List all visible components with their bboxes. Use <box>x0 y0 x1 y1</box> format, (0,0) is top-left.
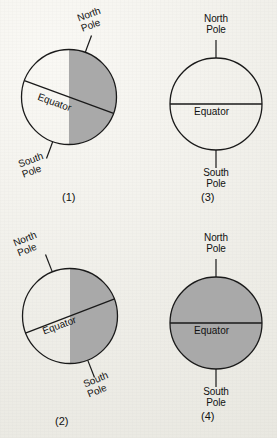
caption-2: (2) <box>55 415 68 427</box>
shaded-hemisphere-1 <box>69 49 118 146</box>
axis-south-stub-1 <box>47 142 53 159</box>
north-pole-label-4: North Pole <box>194 233 238 254</box>
diagram-1: North Pole South Pole Equator (1) <box>0 0 139 219</box>
axis-north-stub-1 <box>85 36 91 53</box>
diagram-3: North Pole South Pole Equator (3) <box>139 0 277 219</box>
caption-3: (3) <box>201 191 214 203</box>
diagram-2: North Pole South Pole Equator (2) <box>0 219 139 438</box>
caption-1: (1) <box>62 191 75 203</box>
north-pole-label-4-line2: Pole <box>206 243 226 254</box>
south-pole-label-3-line1: South <box>203 167 229 178</box>
shaded-hemisphere-2 <box>70 268 119 365</box>
equator-label-3: Equator <box>194 106 229 117</box>
diagram-4: North Pole South Pole Equator (4) <box>139 219 277 438</box>
equator-label-4: Equator <box>194 325 229 336</box>
south-pole-label-3: South Pole <box>194 168 238 189</box>
south-pole-label-3-line2: Pole <box>206 178 226 189</box>
caption-4: (4) <box>201 410 214 422</box>
south-pole-label-4: South Pole <box>194 387 238 408</box>
north-pole-label-3: North Pole <box>194 14 238 35</box>
north-pole-label-3-line1: North <box>204 13 228 24</box>
north-pole-label-4-line1: North <box>204 232 228 243</box>
north-pole-label-3-line2: Pole <box>206 24 226 35</box>
south-pole-label-4-line2: Pole <box>206 397 226 408</box>
south-pole-label-4-line1: South <box>203 386 229 397</box>
axis-north-stub-2 <box>46 255 53 272</box>
